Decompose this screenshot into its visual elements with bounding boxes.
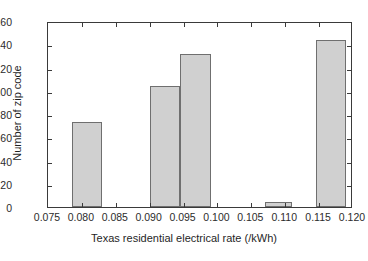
x-tick-mark-top	[82, 23, 83, 27]
x-tick-label: 0.115	[305, 212, 331, 223]
y-tick-mark	[48, 93, 52, 94]
x-tick-label: 0.075	[34, 212, 60, 223]
x-tick-mark	[319, 203, 320, 207]
y-tick-mark-right	[347, 93, 351, 94]
x-tick-label: 0.080	[68, 212, 94, 223]
x-tick-mark-top	[116, 23, 117, 27]
histogram-bar	[72, 122, 103, 207]
y-tick-mark-right	[347, 70, 351, 71]
x-tick-mark-top	[150, 23, 151, 27]
y-tick-mark	[48, 186, 52, 187]
x-tick-label: 0.090	[136, 212, 162, 223]
x-tick-label: 0.120	[339, 212, 365, 223]
x-tick-mark-top	[217, 23, 218, 27]
y-tick-mark-right	[347, 116, 351, 117]
x-tick-label: 0.095	[169, 212, 195, 223]
x-tick-mark	[184, 203, 185, 207]
y-tick-mark-right	[347, 186, 351, 187]
x-tick-mark	[285, 203, 286, 207]
y-tick-mark	[48, 163, 52, 164]
x-tick-mark-top	[285, 23, 286, 27]
x-tick-mark-top	[319, 23, 320, 27]
y-axis-title: Number of zip code	[11, 33, 23, 193]
y-tick-mark-right	[347, 163, 351, 164]
y-tick-label: 0	[0, 203, 12, 214]
x-tick-mark-top	[251, 23, 252, 27]
x-tick-mark	[217, 203, 218, 207]
y-tick-mark-right	[347, 46, 351, 47]
y-tick-mark	[48, 46, 52, 47]
x-axis-title: Texas residential electrical rate (/kWh)	[0, 232, 368, 244]
x-tick-mark	[251, 203, 252, 207]
histogram-bar	[180, 54, 211, 207]
x-tick-label: 0.110	[271, 212, 297, 223]
x-tick-mark	[116, 203, 117, 207]
y-tick-mark-right	[347, 139, 351, 140]
x-tick-mark	[150, 203, 151, 207]
histogram-bar	[150, 86, 181, 207]
histogram-figure: 020406080100120140160 0.0750.0800.0850.0…	[0, 0, 368, 261]
x-tick-label: 0.100	[203, 212, 229, 223]
x-tick-label: 0.085	[102, 212, 128, 223]
histogram-bar	[265, 202, 292, 207]
y-tick-label: 160	[0, 17, 12, 28]
x-tick-mark	[82, 203, 83, 207]
x-tick-mark-top	[184, 23, 185, 27]
y-tick-mark	[48, 139, 52, 140]
histogram-bar	[316, 40, 347, 207]
x-tick-label: 0.105	[237, 212, 263, 223]
y-tick-mark	[48, 70, 52, 71]
y-tick-mark	[48, 116, 52, 117]
plot-area	[47, 22, 352, 208]
